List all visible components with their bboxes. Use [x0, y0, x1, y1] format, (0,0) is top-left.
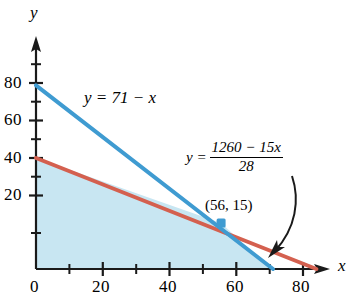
y-tick-label-20: 20 — [4, 186, 22, 203]
plot-canvas — [0, 0, 360, 304]
x-tick-label-20: 20 — [92, 278, 110, 295]
blue-line-equation-label: y = 71 − x — [84, 89, 156, 106]
x-tick-label-80: 80 — [292, 278, 310, 295]
intersection-point-marker — [217, 219, 226, 228]
y-axis-label: y — [30, 4, 38, 21]
x-tick-label-60: 60 — [226, 278, 244, 295]
x-axis-label: x — [338, 257, 346, 274]
red-equation-numerator: 1260 − 15x — [210, 140, 283, 158]
red-line-equation-label: y = 1260 − 15x 28 — [186, 140, 283, 175]
graph-figure: y x 80 60 40 20 0 20 40 60 80 y = 71 − x… — [0, 0, 360, 304]
y-tick-label-60: 60 — [4, 111, 22, 128]
intersection-point-label: (56, 15) — [205, 198, 253, 213]
y-tick-label-80: 80 — [4, 74, 22, 91]
x-tick-label-40: 40 — [159, 278, 177, 295]
formula-pointer-arrow — [275, 176, 296, 251]
y-tick-label-40: 40 — [4, 149, 22, 166]
x-tick-label-0: 0 — [30, 278, 39, 295]
red-equation-lhs: y = — [186, 149, 207, 166]
red-equation-denominator: 28 — [239, 158, 254, 175]
red-equation-fraction: 1260 − 15x 28 — [210, 140, 283, 175]
